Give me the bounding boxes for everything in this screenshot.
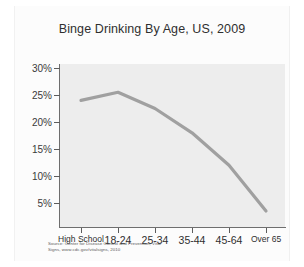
y-tick-5 xyxy=(54,203,60,204)
source-note: Source: Center for Disease Control and P… xyxy=(48,241,228,252)
y-tick-label-5: 5% xyxy=(38,198,52,209)
source-line-2: Signs, www.cdc.gov/vitalsigns, 2010 xyxy=(48,247,228,253)
x-tick-5 xyxy=(266,228,267,233)
x-tick-4 xyxy=(229,228,230,233)
x-tick-label-5: Over 65 xyxy=(251,234,281,244)
y-tick-label-30: 30% xyxy=(32,63,52,74)
x-tick-1 xyxy=(118,228,119,233)
chart-title: Binge Drinking By Age, US, 2009 xyxy=(0,22,304,36)
x-tick-3 xyxy=(192,228,193,233)
x-tick-2 xyxy=(155,228,156,233)
y-tick-15 xyxy=(54,149,60,150)
y-tick-25 xyxy=(54,95,60,96)
y-tick-10 xyxy=(54,176,60,177)
x-axis-line xyxy=(59,227,286,228)
chart-page: Binge Drinking By Age, US, 2009 30%25%20… xyxy=(0,0,304,267)
y-tick-label-25: 25% xyxy=(32,90,52,101)
y-tick-label-15: 15% xyxy=(32,144,52,155)
x-tick-0 xyxy=(81,228,82,233)
y-tick-30 xyxy=(54,68,60,69)
y-tick-label-10: 10% xyxy=(32,171,52,182)
plot-area xyxy=(60,64,285,227)
y-tick-label-20: 20% xyxy=(32,117,52,128)
y-tick-20 xyxy=(54,122,60,123)
